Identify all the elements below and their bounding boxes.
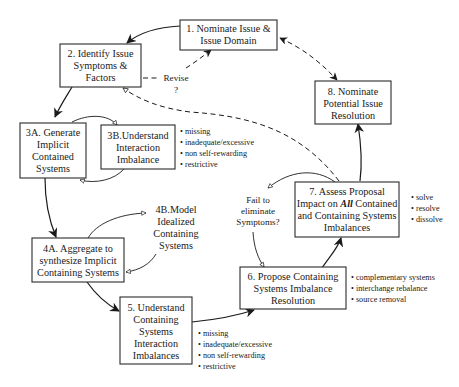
bullets-7: • solve • resolve • dissolve	[411, 193, 443, 224]
arrow-4b-to-4a	[126, 254, 156, 272]
bullet-7-resolve: • resolve	[411, 204, 440, 213]
node-3b-line-3: Imbalance	[117, 154, 160, 165]
bullets-6: • complementary systems • interchange re…	[351, 273, 435, 304]
arrow-3a-to-4a	[45, 178, 56, 237]
node-7-line-4: Imbalances	[324, 222, 370, 233]
label-fail-line-1: Fail to	[246, 195, 270, 205]
node-7-assess-proposal-impact: 7. Assess Proposal Impact on All Contain…	[295, 182, 399, 237]
arrow-3b-to-3a	[80, 169, 124, 182]
node-4a-aggregate-containing-systems: 4A. Aggregate to synthesize Implicit Con…	[32, 238, 124, 282]
bullet-3b-restrictive: • restrictive	[180, 160, 218, 169]
node-4b-model-idealized-systems: 4B.Model Idealized Containing Systems	[153, 204, 198, 251]
node-5-line-5: Imbalances	[133, 350, 179, 361]
node-4b-line-1: 4B.Model	[155, 204, 196, 215]
node-1-line-1: 1. Nominate Issue &	[186, 23, 270, 34]
node-5-line-3: Systems	[139, 326, 173, 337]
node-3a-line-3: Contained	[32, 151, 74, 162]
arrow-4a-to-5	[87, 282, 119, 311]
label-fail-line-2: eliminate	[241, 206, 275, 216]
node-4b-line-4: Systems	[159, 240, 193, 251]
node-5-line-1: 5. Understand	[127, 302, 184, 313]
bullet-7-solve: • solve	[411, 193, 434, 202]
node-2-line-1: 2. Identify Issue	[68, 48, 134, 59]
label-revise: Revise ?	[163, 73, 188, 95]
bullet-6-source-removal: • source removal	[351, 295, 407, 304]
node-3b-understand-interaction-imbalance: 3B.Understand Interaction Imbalance	[101, 125, 175, 169]
node-3b-line-1: 3B.Understand	[107, 130, 168, 141]
arrow-1-to-8-bidirectional	[280, 38, 337, 80]
node-6-line-1: 6. Propose Containing	[248, 271, 339, 282]
arrow-fail-to-6	[253, 232, 264, 267]
node-6-propose-resolution: 6. Propose Containing Systems Imbalance …	[240, 267, 346, 309]
node-8-nominate-resolution: 8. Nominate Potential Issue Resolution	[315, 81, 391, 124]
bullet-6-interchange: • interchange rebalance	[351, 284, 428, 293]
node-3b-line-2: Interaction	[116, 142, 160, 153]
node-4a-line-2: synthesize Implicit	[39, 255, 116, 266]
arrow-1-to-2	[127, 26, 180, 43]
node-7-line-1: 7. Assess Proposal	[309, 186, 385, 197]
node-2-line-2: Symptoms &	[73, 60, 127, 71]
bullet-3b-missing: • missing	[180, 127, 210, 136]
label-revise-word: Revise	[163, 73, 188, 83]
node-4a-line-1: 4A. Aggregate to	[43, 243, 113, 254]
node-4b-line-3: Containing	[153, 228, 198, 239]
label-fail-line-3: Symptoms?	[236, 217, 279, 227]
node-8-line-2: Potential Issue	[323, 98, 383, 109]
node-2-line-3: Factors	[86, 72, 116, 83]
bullet-5-missing: • missing	[198, 329, 228, 338]
node-6-line-2: Systems Imbalance	[254, 283, 333, 294]
arrow-6-to-7	[322, 238, 341, 268]
node-3a-generate-contained-systems: 3A. Generate Implicit Contained Systems	[20, 123, 86, 178]
bullet-3b-non-self-rewarding: • non self-rewarding	[180, 149, 247, 158]
node-7-line-3: and Containing Systems	[297, 210, 396, 221]
node-1-line-2: Issue Domain	[200, 35, 256, 46]
bullet-5-restrictive: • restrictive	[198, 362, 236, 371]
node-2-identify-symptoms: 2. Identify Issue Symptoms & Factors	[60, 44, 141, 87]
issue-resolution-process-diagram: 1. Nominate Issue & Issue Domain 2. Iden…	[0, 0, 459, 387]
node-7-line-2: Impact on All Contained	[297, 198, 397, 209]
node-1-nominate-issue: 1. Nominate Issue & Issue Domain	[180, 20, 277, 50]
bullet-6-complementary: • complementary systems	[351, 273, 435, 282]
arrow-5-to-6	[192, 310, 254, 322]
node-5-line-4: Interaction	[134, 338, 178, 349]
node-4b-line-2: Idealized	[157, 216, 194, 227]
arrow-2-to-3a	[55, 87, 72, 117]
node-8-line-3: Resolution	[331, 110, 375, 121]
arrow-revise-to-1	[186, 50, 211, 68]
node-5-line-2: Containing	[133, 314, 178, 325]
node-4a-line-3: Containing Systems	[37, 267, 119, 278]
node-5-understand-containing-imbalances: 5. Understand Containing Systems Interac…	[120, 297, 192, 364]
node-3a-line-4: Systems	[36, 163, 70, 174]
label-revise-question: ?	[174, 85, 178, 95]
bullets-3b: • missing • inadequate/excessive • non s…	[180, 127, 254, 169]
label-fail-to-eliminate: Fail to eliminate Symptoms?	[236, 195, 279, 227]
node-6-line-3: Resolution	[271, 295, 315, 306]
node-3a-line-1: 3A. Generate	[26, 127, 81, 138]
bullet-5-non-self-rewarding: • non self-rewarding	[198, 351, 265, 360]
bullets-5: • missing • inadequate/excessive • non s…	[198, 329, 272, 371]
node-3a-line-2: Implicit	[37, 139, 69, 150]
node-8-line-1: 8. Nominate	[328, 86, 379, 97]
bullet-7-dissolve: • dissolve	[411, 215, 443, 224]
arrow-4a-to-4b	[88, 213, 146, 238]
arrow-7-to-8	[358, 124, 361, 181]
bullet-3b-inadequate: • inadequate/excessive	[180, 138, 254, 147]
bullet-5-inadequate: • inadequate/excessive	[198, 340, 272, 349]
